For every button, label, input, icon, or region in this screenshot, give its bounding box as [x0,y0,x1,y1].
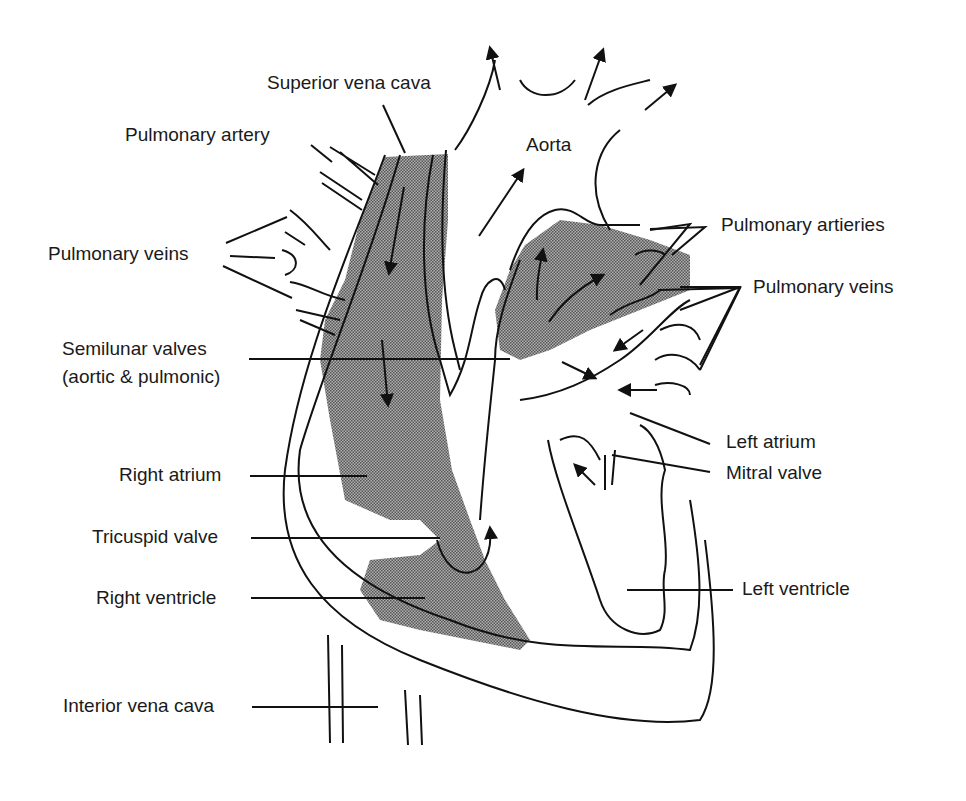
mitral-valve-leaflets [560,436,615,490]
flow-arrow-aorta [479,170,523,236]
leader-superior-vena-cava [383,105,405,153]
leader-pulmonary-veins-left [223,217,292,298]
heart-illustration [0,0,966,801]
label-mitral-valve: Mitral valve [726,462,822,484]
label-semilunar-valves-sub: (aortic & pulmonic) [62,366,220,388]
label-right-atrium: Right atrium [119,464,221,486]
flow-arrow-aorta-out-2 [585,50,603,100]
leader-left-atrium [630,413,710,444]
label-interior-vena-cava: Interior vena cava [63,695,214,717]
label-left-atrium: Left atrium [726,431,816,453]
flow-arrow-pv-1 [615,330,643,350]
leader-pulmonary-artery [311,145,332,162]
flow-arrow-aorta-out-3 [645,85,675,110]
label-left-ventricle: Left ventricle [742,578,850,600]
flow-arrow-mitral [575,465,595,485]
pulmonary-veins-right-vessels [610,288,740,395]
heart-diagram: Superior vena cava Pulmonary artery Pulm… [0,0,966,801]
label-right-ventricle: Right ventricle [96,587,216,609]
label-pulmonary-artieries: Pulmonary artieries [721,214,885,236]
flow-arrow-la-in [562,362,595,378]
label-pulmonary-artery: Pulmonary artery [125,124,270,146]
label-pulmonary-veins-right: Pulmonary veins [753,276,893,298]
label-aorta: Aorta [526,134,571,156]
label-semilunar-valves: Semilunar valves [62,338,207,360]
inferior-vena-cava [328,635,422,745]
label-tricuspid-valve: Tricuspid valve [92,526,218,548]
left-ventricle-inner [548,425,666,634]
flow-arrow-aorta-out-1 [490,48,500,90]
label-pulmonary-veins-left: Pulmonary veins [48,243,188,265]
label-superior-vena-cava: Superior vena cava [267,72,431,94]
